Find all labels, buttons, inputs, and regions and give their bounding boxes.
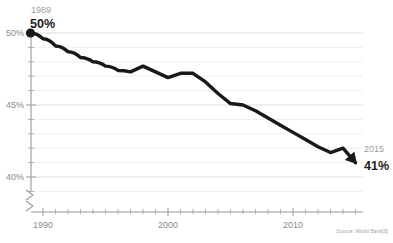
gridlines-minor	[31, 47, 363, 191]
x-tick-label-1990: 1990	[33, 220, 53, 230]
data-series-line	[31, 33, 356, 163]
y-axis	[26, 29, 36, 192]
line-chart: 50% 45% 40%	[0, 0, 393, 243]
y-tick-label-45: 45%	[6, 100, 24, 110]
y-axis-break-icon	[26, 190, 33, 211]
x-axis	[31, 208, 363, 216]
chart-canvas: 50% 45% 40%	[0, 0, 393, 243]
y-tick-label-40: 40%	[6, 172, 24, 182]
source-note: Source: World Bank[9]	[336, 228, 388, 234]
end-annotation-year: 2015	[364, 144, 384, 154]
y-tick-label-50: 50%	[6, 28, 24, 38]
start-annotation-year: 1989	[31, 5, 51, 15]
gridlines-major	[31, 33, 363, 177]
x-tick-label-2010: 2010	[283, 220, 303, 230]
start-annotation-value: 50%	[30, 17, 55, 31]
x-tick-label-2000: 2000	[158, 220, 178, 230]
end-annotation-value: 41%	[364, 159, 389, 173]
